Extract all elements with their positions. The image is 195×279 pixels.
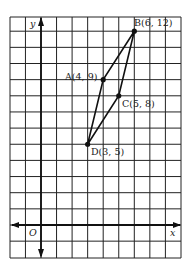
coordinate-grid-figure: y x O A(4, 9) B(6, 12) C(5, 8) D(3, 5) bbox=[0, 0, 195, 279]
point-a-label: A(4, 9) bbox=[64, 71, 97, 82]
quadrilateral-dabc bbox=[88, 31, 135, 144]
y-axis-label: y bbox=[29, 18, 36, 29]
grid bbox=[10, 17, 181, 258]
point-b bbox=[132, 29, 137, 34]
point-c bbox=[116, 93, 121, 98]
x-axis-left-arrow-icon bbox=[11, 222, 19, 228]
point-d-label: D(3, 5) bbox=[91, 146, 124, 157]
point-b-label: B(6, 12) bbox=[134, 17, 173, 28]
axes: y x O bbox=[11, 17, 181, 258]
point-a bbox=[101, 77, 106, 82]
point-d bbox=[85, 142, 90, 147]
point-c-label: C(5, 8) bbox=[122, 98, 155, 109]
x-axis-label: x bbox=[170, 227, 176, 238]
origin-label: O bbox=[29, 227, 37, 238]
y-axis-up-arrow-icon bbox=[38, 17, 44, 26]
y-axis-down-arrow-icon bbox=[38, 249, 44, 258]
